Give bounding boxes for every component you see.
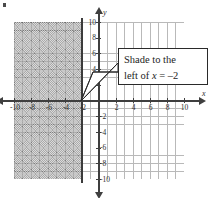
x-tick-label-neg4: -4	[63, 104, 69, 112]
x-tick-label-6: 6	[149, 104, 153, 112]
y-tick-label-2: 2	[88, 82, 96, 90]
x-axis-label: x	[202, 89, 206, 98]
y-tick-label-neg2: -2	[100, 113, 106, 121]
x-axis-left-arrow-icon	[0, 97, 3, 105]
y-tick-label-10: 10	[88, 19, 96, 27]
x-tick-label-2: 2	[115, 104, 119, 112]
x-tick-label-10: 10	[181, 104, 189, 112]
y-tick-label-6: 6	[88, 50, 96, 58]
y-tick-label-neg6: -6	[100, 144, 106, 152]
y-tick-10	[96, 22, 101, 23]
y-tick-2	[96, 85, 101, 86]
page-speck-mark	[3, 3, 6, 7]
callout-line-1: Shade to the	[124, 52, 205, 68]
y-tick-8	[96, 38, 101, 39]
y-tick-label-neg8: -8	[100, 160, 106, 168]
y-tick-label-8: 8	[88, 34, 96, 42]
x-tick-label-neg2: -2	[80, 104, 86, 112]
callout-line-2: left of x = –2	[124, 68, 205, 84]
y-tick-label-4: 4	[88, 66, 96, 74]
x-tick-label-8: 8	[166, 104, 170, 112]
y-axis-up-arrow-icon	[95, 7, 103, 14]
callout-line-2-suffix: = –2	[159, 70, 178, 81]
y-tick-4	[96, 69, 101, 70]
plot-area: -10 -8 -6 -4 -2 2 4 6 8 10 10 8 6 4 2 -2…	[14, 22, 184, 179]
callout-line-2-prefix: left of	[124, 70, 149, 81]
shade-callout-box: Shade to the left of x = –2	[118, 48, 208, 85]
y-tick-label-neg10: -10	[100, 176, 110, 184]
x-tick-label-neg8: -8	[29, 104, 35, 112]
x-tick-label-4: 4	[132, 104, 136, 112]
y-tick-6	[96, 53, 101, 54]
x-tick-label-neg6: -6	[46, 104, 52, 112]
y-axis-down-arrow-icon	[95, 192, 103, 198]
coordinate-plane-figure: -10 -8 -6 -4 -2 2 4 6 8 10 10 8 6 4 2 -2…	[0, 0, 211, 198]
callout-variable-x: x	[152, 70, 157, 81]
y-tick-label-neg4: -4	[100, 129, 106, 137]
x-tick-label-neg10: -10	[10, 104, 20, 112]
y-axis-label: y	[103, 8, 107, 17]
